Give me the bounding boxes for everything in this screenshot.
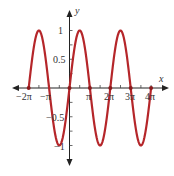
sine-chart: x y −2π −π π 2π 3π 4π 1 0.5 −0.5 −1 bbox=[0, 0, 174, 176]
y-tick-label-neg0.5: −0.5 bbox=[46, 112, 64, 123]
x-tick-label-neg2pi: −2π bbox=[16, 91, 32, 102]
y-axis-up-arrow-icon bbox=[67, 10, 73, 17]
x-tick-label-4pi: 4π bbox=[145, 91, 155, 102]
x-axis-right-arrow-icon bbox=[162, 85, 169, 91]
y-tick-label-1: 1 bbox=[58, 25, 63, 36]
x-tick-label-3pi: 3π bbox=[125, 91, 135, 102]
x-tick-label-pi: π bbox=[86, 91, 91, 102]
x-tick-label-negpi: −π bbox=[40, 91, 51, 102]
x-axis-label: x bbox=[158, 73, 164, 84]
y-tick-label-0.5: 0.5 bbox=[53, 54, 66, 65]
y-axis-down-arrow-icon bbox=[67, 159, 73, 166]
y-tick-label-neg1: −1 bbox=[54, 141, 65, 152]
x-tick-label-2pi: 2π bbox=[104, 91, 114, 102]
y-axis-label: y bbox=[74, 5, 80, 16]
